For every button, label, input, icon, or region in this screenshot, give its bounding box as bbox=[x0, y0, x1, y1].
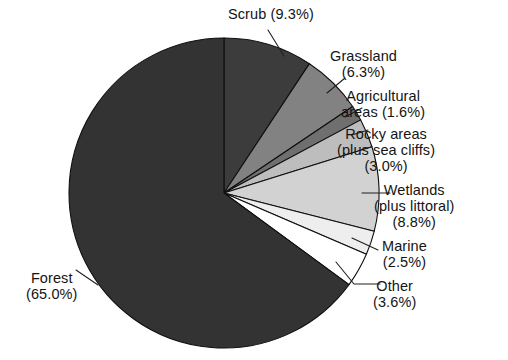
pie-chart: Scrub (9.3%) Grassland (6.3%) Agricultur… bbox=[0, 0, 508, 360]
pie-label-marine: Marine (2.5%) bbox=[382, 238, 427, 270]
pie-label-forest: Forest (65.0%) bbox=[26, 270, 77, 302]
pie-label-other-line1: Other bbox=[373, 278, 416, 294]
pie-label-rocky-areas: Rocky areas (plus sea cliffs) (3.0%) bbox=[337, 126, 435, 175]
pie-label-agricultural-line1: Agricultural bbox=[341, 88, 425, 104]
pie-label-wetlands: Wetlands (plus littoral) (8.8%) bbox=[374, 182, 454, 231]
pie-label-scrub-line1: Scrub (9.3%) bbox=[228, 6, 314, 22]
pie-label-scrub: Scrub (9.3%) bbox=[228, 6, 314, 22]
pie-label-agricultural: Agricultural areas (1.6%) bbox=[341, 88, 425, 120]
pie-label-other-line2: (3.6%) bbox=[373, 294, 416, 310]
pie-label-rocky-areas-line2: (plus sea cliffs) bbox=[337, 142, 435, 158]
pie-label-forest-line2: (65.0%) bbox=[26, 286, 77, 302]
pie-label-wetlands-line1: Wetlands bbox=[374, 182, 454, 198]
pie-label-forest-line1: Forest bbox=[26, 270, 77, 286]
pie-label-grassland-line1: Grassland bbox=[330, 48, 397, 64]
pie-label-rocky-areas-line3: (3.0%) bbox=[337, 158, 435, 174]
pie-label-grassland: Grassland (6.3%) bbox=[330, 48, 397, 80]
pie-label-marine-line1: Marine bbox=[382, 238, 427, 254]
pie-label-wetlands-line3: (8.8%) bbox=[374, 214, 454, 230]
pie-label-wetlands-line2: (plus littoral) bbox=[374, 198, 454, 214]
pie-label-grassland-line2: (6.3%) bbox=[330, 64, 397, 80]
pie-slices-group bbox=[69, 38, 379, 348]
pie-label-rocky-areas-line1: Rocky areas bbox=[337, 126, 435, 142]
pie-label-other: Other (3.6%) bbox=[373, 278, 416, 310]
pie-label-agricultural-line2: areas (1.6%) bbox=[341, 104, 425, 120]
pie-label-marine-line2: (2.5%) bbox=[382, 254, 427, 270]
pie-chart-canvas bbox=[0, 0, 508, 360]
